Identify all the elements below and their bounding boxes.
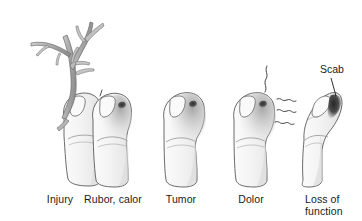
branch-twig-mid-right: [75, 61, 90, 65]
inflammation-signs-figure: Injury Rubor, calor Tumor Dolor Loss of …: [0, 0, 362, 221]
branch-twig-stub: [56, 53, 61, 65]
panel-label-rubor-calor-line: Rubor, calor: [84, 194, 142, 206]
panel-label-dolor: Dolor: [238, 194, 264, 206]
figure-artwork: [0, 0, 362, 221]
panel-rubor-calor: [93, 93, 132, 187]
panel-label-loss-line-1: Loss of: [305, 194, 343, 206]
panel-label-dolor-line: Dolor: [238, 194, 264, 206]
panel-label-injury-line: Injury: [47, 194, 73, 206]
branch-twig-hook: [76, 26, 86, 42]
panel-label-tumor-line: Tumor: [166, 194, 196, 206]
panel-loss-of-function: [302, 78, 342, 187]
panel-label-rubor-calor: Rubor, calor: [84, 194, 142, 206]
branch-twig-left-down: [36, 45, 49, 56]
panel-label-loss-line-2: function: [305, 206, 343, 218]
panel-tumor: [164, 93, 206, 187]
panel-label-injury: Injury: [47, 194, 73, 206]
panel-dolor: [234, 66, 296, 187]
branch-twig-lower-right: [76, 69, 94, 75]
scab-annotation-label: Scab: [320, 63, 344, 75]
panel-label-loss-of-function: Loss of function: [305, 194, 343, 217]
panel-label-tumor: Tumor: [166, 194, 196, 206]
